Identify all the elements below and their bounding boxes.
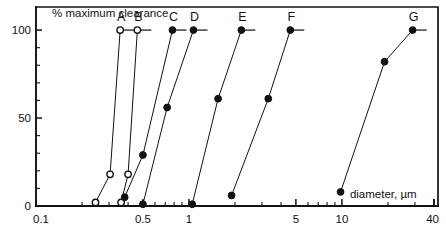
chart-title: % maximum clearance: [52, 7, 168, 19]
x-axis-title: diameter, µm: [350, 188, 417, 200]
x-tick-label: 40: [426, 213, 439, 225]
y-tick-label: 100: [12, 24, 31, 36]
data-point-F-2: [265, 95, 272, 102]
data-point-E-3: [238, 27, 245, 34]
data-point-A-3: [117, 27, 123, 33]
data-point-G-1: [337, 189, 344, 196]
data-point-G-3: [409, 27, 416, 34]
data-point-A-2: [107, 171, 113, 177]
data-point-C-1: [121, 194, 128, 201]
series-label-B: B: [134, 10, 142, 24]
series-label-E: E: [238, 10, 246, 24]
series-label-D: D: [190, 10, 199, 24]
series-label-A: A: [117, 10, 126, 24]
series-label-G: G: [409, 10, 419, 24]
series-line-E: [192, 30, 241, 204]
data-point-G-2: [381, 58, 388, 65]
series-line-D: [143, 30, 194, 204]
data-point-A-1: [92, 199, 98, 205]
data-point-F-1: [228, 192, 235, 199]
series-label-F: F: [288, 10, 296, 24]
x-tick-label: 1: [186, 213, 192, 225]
data-point-D-1: [140, 201, 147, 208]
y-tick-label: 0: [25, 200, 31, 212]
series-line-G: [341, 30, 413, 192]
data-point-D-3: [190, 27, 197, 34]
data-point-E-2: [215, 95, 222, 102]
data-point-C-2: [140, 152, 147, 159]
x-tick-label: 0.5: [135, 213, 151, 225]
y-tick-label: 50: [18, 112, 31, 124]
x-tick-label: 5: [293, 213, 299, 225]
data-point-B-3: [134, 27, 140, 33]
chart-frame: [36, 7, 438, 206]
series-label-C: C: [169, 10, 178, 24]
x-tick-label: 0.1: [33, 213, 49, 225]
chart-figure: 0501000.10.5151040% maximum clearancedia…: [0, 0, 446, 236]
data-point-C-3: [169, 27, 176, 34]
data-point-E-1: [189, 201, 196, 208]
data-point-F-3: [287, 27, 294, 34]
semilog-line-chart: 0501000.10.5151040% maximum clearancedia…: [0, 0, 446, 236]
series-line-F: [232, 30, 291, 195]
data-point-D-2: [164, 104, 171, 111]
x-tick-label: 10: [336, 213, 349, 225]
data-point-B-2: [125, 171, 131, 177]
